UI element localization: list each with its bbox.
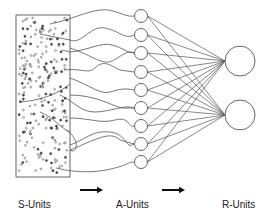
sensory-dot — [42, 53, 44, 55]
arrow-head-icon — [97, 187, 103, 193]
sensory-dot — [46, 117, 48, 119]
sensory-dot — [22, 161, 24, 163]
sensory-dot — [23, 87, 25, 89]
s-to-a-connection — [70, 118, 134, 126]
sensory-dot — [64, 68, 66, 70]
sensory-dot — [38, 77, 40, 79]
sensory-dot — [35, 80, 37, 82]
sensory-dot — [29, 105, 31, 107]
sensory-dot — [29, 133, 31, 135]
sensory-dot — [54, 161, 56, 163]
a-to-r-connection — [148, 115, 226, 144]
s-to-a-connection — [70, 95, 134, 108]
sensory-dot — [65, 142, 67, 144]
sensory-dot — [29, 78, 31, 80]
sensory-dot — [21, 82, 23, 84]
sensory-dot — [56, 172, 58, 174]
s-to-a-connection — [56, 162, 134, 172]
sensory-dot — [34, 33, 36, 35]
sensory-dot — [22, 20, 24, 22]
a-to-r-connections — [148, 16, 226, 162]
sensory-dot — [51, 110, 53, 112]
sensory-dot — [24, 78, 26, 80]
s-to-a-connection — [40, 112, 70, 132]
sensory-dot — [56, 160, 58, 162]
sensory-dot — [58, 148, 60, 150]
sensory-dot — [31, 72, 33, 74]
a-unit-node — [135, 156, 148, 169]
sensory-dot — [50, 167, 52, 169]
sensory-dot — [61, 165, 63, 167]
sensory-dot — [24, 68, 26, 70]
sensory-dot — [25, 40, 27, 42]
sensory-dot — [37, 59, 39, 61]
sensory-dot — [24, 157, 26, 159]
s-to-a-connections — [20, 10, 134, 172]
sensory-dot — [37, 154, 39, 156]
sensory-dot — [59, 86, 61, 88]
sensory-dot — [50, 73, 52, 75]
sensory-dot — [22, 28, 24, 30]
sensory-dot — [52, 104, 54, 106]
sensory-dot — [39, 29, 41, 31]
a-to-r-connection — [148, 115, 226, 162]
sensory-dot — [25, 63, 27, 65]
sensory-dot — [23, 109, 25, 111]
s-to-a-connection — [70, 78, 134, 93]
sensory-dot — [64, 156, 66, 158]
sensory-dot — [41, 104, 43, 106]
sensory-dot — [19, 45, 21, 47]
sensory-dot — [25, 145, 27, 147]
sensory-dot — [48, 75, 50, 77]
r-unit-node — [225, 46, 255, 76]
sensory-dot — [30, 130, 32, 132]
sensory-dot — [22, 50, 24, 52]
sensory-dot — [35, 170, 37, 172]
s-to-a-connection — [66, 130, 134, 151]
sensory-dot — [64, 112, 66, 114]
sensory-dot — [38, 157, 40, 159]
sensory-dot — [63, 110, 65, 112]
sensory-dot — [44, 100, 46, 102]
sensory-dot — [23, 92, 25, 94]
sensory-dot — [63, 117, 65, 119]
sensory-dot — [38, 62, 40, 64]
r-units — [225, 46, 255, 130]
sensory-dot — [25, 19, 27, 21]
a-unit-node — [135, 10, 148, 23]
sensory-dot — [30, 113, 32, 115]
sensory-dot — [42, 142, 44, 144]
sensory-dot — [65, 58, 67, 60]
sensory-dot — [41, 37, 43, 39]
sensory-dot — [64, 65, 66, 67]
sensory-dot — [33, 146, 35, 148]
sensory-dot — [55, 125, 57, 127]
sensory-dot — [45, 159, 47, 161]
sensory-dot — [45, 119, 47, 121]
sensory-dot — [26, 127, 28, 129]
sensory-dot — [65, 162, 67, 164]
s-units-label: S-Units — [18, 199, 51, 210]
sensory-dot — [30, 66, 32, 68]
sensory-dot — [55, 108, 57, 110]
sensory-dot — [41, 86, 43, 88]
sensory-dot — [30, 25, 32, 27]
sensory-dot — [66, 116, 68, 118]
sensory-dot — [22, 43, 24, 45]
sensory-dot — [60, 51, 62, 53]
sensory-dot — [61, 104, 63, 106]
sensory-dot — [43, 66, 45, 68]
sensory-dot — [54, 28, 56, 30]
sensory-dot — [30, 43, 32, 45]
sensory-dot — [22, 94, 24, 96]
a-unit-node — [135, 120, 148, 133]
sensory-dot — [21, 57, 23, 59]
sensory-dot — [56, 128, 58, 130]
sensory-dot — [30, 55, 32, 57]
a-to-r-connection — [148, 61, 226, 108]
sensory-dot — [19, 68, 21, 70]
sensory-dot — [37, 148, 39, 150]
sensory-dot — [18, 73, 20, 75]
a-unit-node — [135, 84, 148, 97]
sensory-dot — [29, 122, 31, 124]
